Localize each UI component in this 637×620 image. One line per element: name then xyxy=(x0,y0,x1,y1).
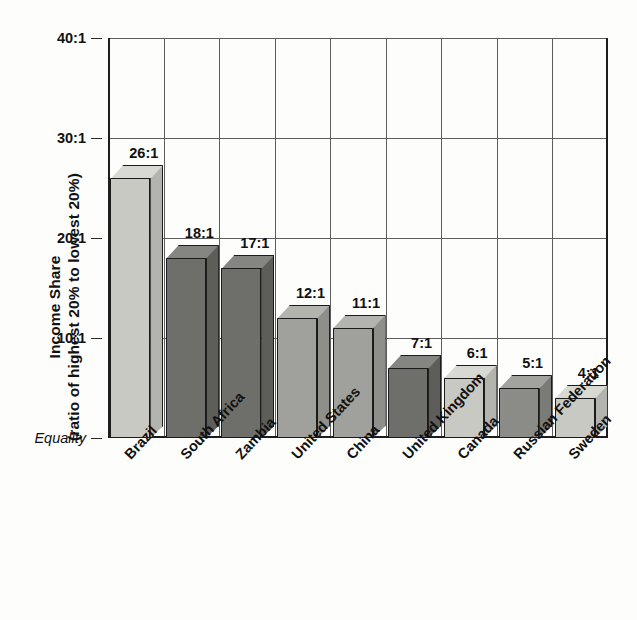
y-axis-tick-label: 10:1 xyxy=(57,331,86,346)
bar-brazil: 26:1 xyxy=(110,165,163,438)
bar-series: 26:118:117:112:111:17:16:15:14:1 xyxy=(108,38,608,438)
y-axis-tick-label: 40:1 xyxy=(57,31,86,46)
bar-side-face xyxy=(373,315,386,438)
y-axis-tick-mark xyxy=(91,138,102,139)
bar-front-face xyxy=(333,328,373,438)
x-axis-tick-labels: BrazilSouth AfricaZambiaUnited StatesChi… xyxy=(108,444,608,620)
bar-value-label: 17:1 xyxy=(217,236,292,251)
bar-front-face xyxy=(110,178,150,438)
bar-south-africa: 18:1 xyxy=(166,245,219,438)
y-axis-tick-mark xyxy=(91,38,102,39)
bar-front-face xyxy=(166,258,206,438)
y-axis-tick-mark xyxy=(91,338,102,339)
y-axis-tick-label: 20:1 xyxy=(57,231,86,246)
y-axis-tick-label: Equality xyxy=(34,431,86,446)
bar-value-label: 11:1 xyxy=(329,296,404,311)
y-axis-tick-mark xyxy=(91,438,102,439)
bar-side-face xyxy=(150,165,163,438)
bar-china: 11:1 xyxy=(333,315,386,438)
chart-canvas: 40:130:120:110:1Equality Income Share (r… xyxy=(0,0,637,620)
bar-value-label: 26:1 xyxy=(106,146,181,161)
bar-front-face xyxy=(277,318,317,438)
y-axis-tick-label: 30:1 xyxy=(57,131,86,146)
y-axis-tick-mark xyxy=(91,238,102,239)
bar-side-face xyxy=(261,255,274,438)
y-axis-tick-labels: 40:130:120:110:1Equality xyxy=(18,0,102,620)
